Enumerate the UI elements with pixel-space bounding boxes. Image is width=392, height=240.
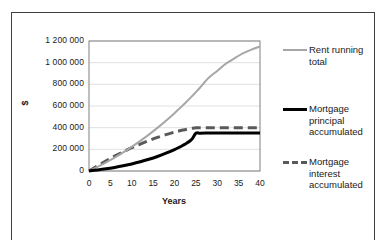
x-axis-tick: 20	[165, 178, 185, 188]
x-axis-label: Years	[129, 196, 219, 206]
series-line	[89, 46, 260, 171]
legend-swatch-icon	[283, 161, 307, 164]
legend-swatch-icon	[283, 49, 307, 51]
x-axis-tick: 25	[186, 178, 206, 188]
y-axis-label: $	[20, 100, 30, 105]
legend-label: Mortgage interest accumulated	[309, 156, 381, 191]
y-axis-tick: 800 000	[22, 78, 84, 88]
gridlines	[89, 41, 260, 171]
legend-label: Mortgage principal accumulated	[309, 103, 381, 138]
legend-label: Rent running total	[309, 44, 381, 67]
x-axis-tick: 10	[122, 178, 142, 188]
x-axis-tick: 5	[100, 178, 120, 188]
x-axis-tick: 0	[79, 178, 99, 188]
legend-swatch-icon	[283, 108, 307, 111]
x-axis-tick: 15	[143, 178, 163, 188]
y-axis-tick: 0	[22, 165, 84, 175]
x-axis-tick: 35	[229, 178, 249, 188]
x-axis-tick: 40	[250, 178, 270, 188]
y-axis-tick: 600 000	[22, 100, 84, 110]
y-axis-tick: 1 200 000	[22, 35, 84, 45]
y-axis-tick: 400 000	[22, 122, 84, 132]
series-line	[89, 133, 260, 171]
y-axis-tick: 200 000	[22, 143, 84, 153]
series-lines	[89, 46, 260, 171]
y-axis-tick: 1 000 000	[22, 57, 84, 67]
x-axis-tick: 30	[207, 178, 227, 188]
